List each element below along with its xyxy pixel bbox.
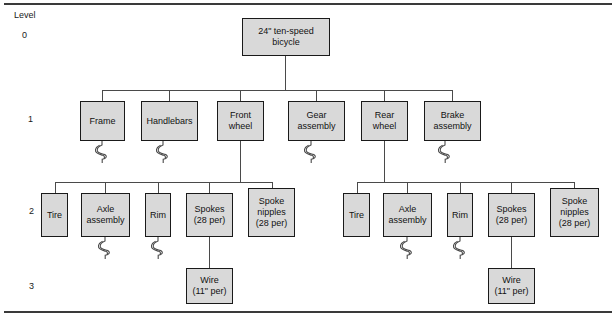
edge-rear-wheel-stem (384, 141, 385, 182)
edge-root-stem (285, 56, 286, 90)
node-rim-front[interactable]: Rim (145, 193, 171, 237)
node-rim-rear[interactable]: Rim (447, 193, 473, 237)
node-spokes-rear[interactable]: Spokes (28 per) (488, 193, 535, 237)
break-symbol-gear-assembly (304, 141, 318, 163)
top-divider-rule (4, 3, 612, 5)
break-symbol-frame (95, 141, 109, 163)
node-24in-ten-speed-bicycle[interactable]: 24" ten-speed bicycle (242, 18, 330, 56)
edge-level1-bus (102, 90, 453, 91)
level-label-0: 0 (22, 30, 27, 41)
node-spoke-nipples-front[interactable]: Spoke nipples (28 per) (248, 188, 295, 237)
edge-to-handlebars (169, 90, 170, 101)
node-spokes-front[interactable]: Spokes (28 per) (186, 193, 233, 237)
node-rear-wheel[interactable]: Rear wheel (361, 101, 408, 141)
node-wire-front[interactable]: Wire (11" per) (186, 268, 233, 304)
node-frame[interactable]: Frame (80, 101, 125, 141)
node-tire-rear[interactable]: Tire (343, 193, 370, 237)
edge-to-front-wheel (240, 90, 241, 101)
edge-level2-bus-rear (357, 182, 575, 183)
node-spoke-nipples-rear[interactable]: Spoke nipples (28 per) (550, 188, 599, 237)
level-column-header: Level (14, 10, 36, 21)
node-tire-front[interactable]: Tire (41, 193, 68, 237)
node-brake-assembly[interactable]: Brake assembly (424, 101, 481, 141)
level-label-3: 3 (29, 281, 34, 292)
node-axle-assembly-front[interactable]: Axle assembly (81, 193, 130, 237)
node-wire-rear[interactable]: Wire (11" per) (488, 268, 535, 304)
edge-to-frame (102, 90, 103, 101)
break-symbol-axle-rear (400, 237, 414, 259)
node-handlebars[interactable]: Handlebars (141, 101, 198, 141)
node-axle-assembly-rear[interactable]: Axle assembly (383, 193, 432, 237)
break-symbol-handlebars (156, 141, 170, 163)
edge-level2-bus-front (55, 182, 273, 183)
edge-front-wheel-stem (240, 141, 241, 182)
break-symbol-rim-rear (453, 237, 467, 259)
edge-to-wire-front (209, 237, 210, 269)
edge-to-gear-assembly (316, 90, 317, 101)
break-symbol-rim-front (151, 237, 165, 259)
break-symbol-axle-front (98, 237, 112, 259)
bottom-divider-rule (4, 311, 612, 313)
edge-to-rear-wheel (384, 90, 385, 101)
node-front-wheel[interactable]: Front wheel (217, 101, 264, 141)
product-structure-diagram: Level 0123 24" ten-speed bicycleFrameHan… (0, 0, 616, 327)
edge-to-wire-rear (511, 237, 512, 269)
edge-to-brake-assembly (452, 90, 453, 101)
node-gear-assembly[interactable]: Gear assembly (288, 101, 345, 141)
level-label-1: 1 (28, 114, 33, 125)
break-symbol-brake-assembly (438, 141, 452, 163)
level-label-2: 2 (29, 206, 34, 217)
